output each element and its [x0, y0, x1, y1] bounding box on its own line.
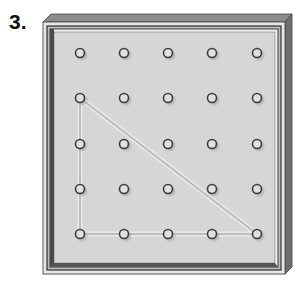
peg-icon: [76, 94, 85, 103]
peg-icon: [76, 140, 85, 149]
peg-icon: [253, 140, 262, 149]
peg-icon: [164, 185, 173, 194]
peg-icon: [253, 94, 262, 103]
peg-icon: [120, 94, 129, 103]
peg-icon: [253, 185, 262, 194]
peg-icon: [120, 49, 129, 58]
peg-icon: [120, 140, 129, 149]
peg-icon: [208, 49, 217, 58]
peg-icon: [208, 94, 217, 103]
geoboard: [0, 0, 301, 285]
peg-icon: [208, 185, 217, 194]
frame-right-side: [285, 14, 292, 274]
peg-icon: [164, 140, 173, 149]
peg-icon: [253, 49, 262, 58]
peg-icon: [164, 230, 173, 239]
peg-icon: [120, 185, 129, 194]
peg-icon: [208, 140, 217, 149]
frame-top-bevel: [43, 14, 292, 22]
peg-icon: [164, 49, 173, 58]
peg-icon: [164, 94, 173, 103]
peg-icon: [76, 49, 85, 58]
peg-icon: [76, 185, 85, 194]
peg-icon: [76, 230, 85, 239]
peg-icon: [253, 230, 262, 239]
peg-icon: [208, 230, 217, 239]
peg-icon: [120, 230, 129, 239]
